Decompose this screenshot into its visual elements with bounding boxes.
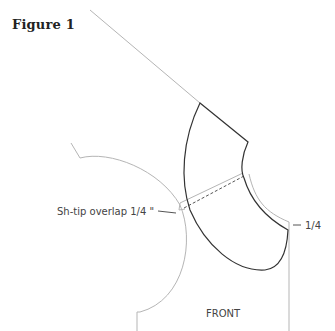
front-side-line [249,174,289,331]
overlap-label: Sh-tip overlap 1/4 " [57,206,154,217]
pattern-piece-outline [184,103,288,270]
overlap-leader-line [158,211,176,213]
shoulder-guide-line [90,10,200,103]
front-label: FRONT [206,308,241,319]
overlap-guide-line [180,173,243,203]
front-armhole-curve [71,143,187,331]
measure-label: 1/4 [305,220,321,231]
overlap-dashed-line [184,176,244,208]
pattern-diagram: Sh-tip overlap 1/4 " 1/4 FRONT [0,0,335,331]
